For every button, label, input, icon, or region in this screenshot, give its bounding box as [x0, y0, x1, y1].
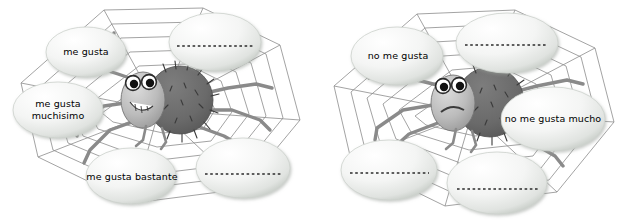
left-bubble-2[interactable] [13, 82, 103, 138]
right-bubble-4[interactable] [341, 140, 437, 200]
negative-opinion-web-panel: no me gusta no me gusta mucho [317, 0, 635, 224]
left-web-graphic [0, 0, 318, 224]
right-bubble-1[interactable] [351, 27, 443, 85]
right-bubble-2[interactable] [501, 87, 605, 151]
left-bubble-3[interactable] [86, 148, 176, 204]
positive-opinion-web-panel: me gusta me gusta muchisimo me gusta bas… [0, 0, 318, 224]
left-bubble-5[interactable] [196, 138, 290, 198]
right-bubble-5[interactable] [447, 152, 547, 214]
worksheet-canvas: me gusta me gusta muchisimo me gusta bas… [0, 0, 635, 224]
left-bubble-1[interactable] [46, 27, 126, 77]
left-spider-head [121, 72, 165, 128]
right-web-graphic [317, 0, 635, 224]
right-spider-head [431, 75, 475, 131]
left-bubble-4[interactable] [169, 13, 261, 71]
right-bubble-3[interactable] [456, 13, 558, 73]
